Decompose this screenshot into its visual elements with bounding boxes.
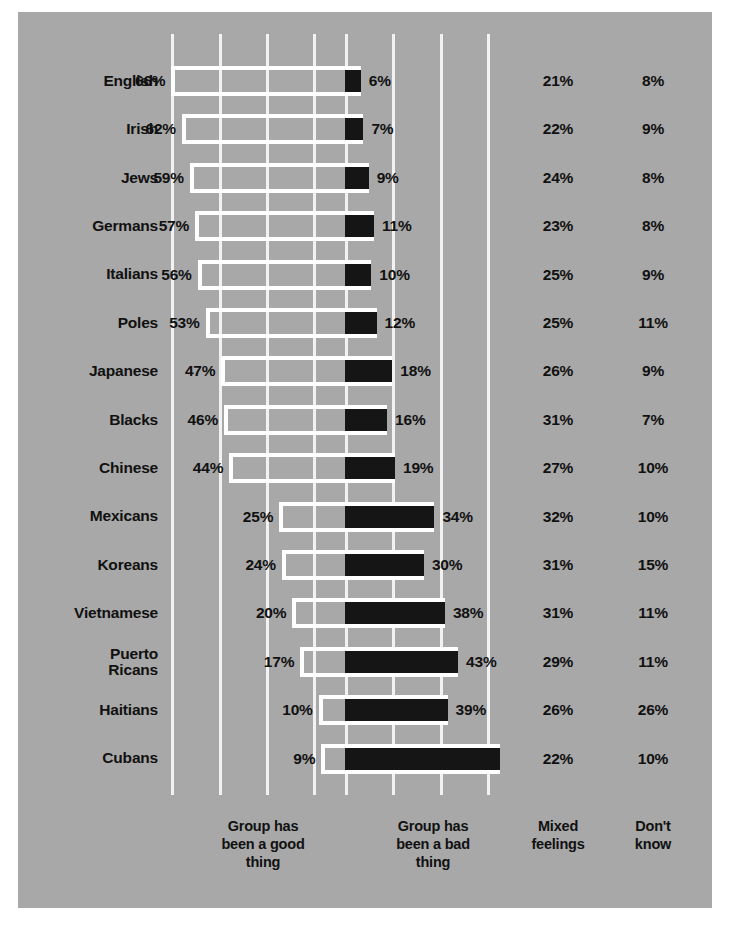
header-dont-know: Don't know: [618, 817, 688, 853]
bar-bad-segment: [345, 70, 361, 92]
value-dont-know: 9%: [618, 253, 688, 297]
value-bad: 30%: [432, 543, 512, 587]
bar-bad-segment: [345, 651, 458, 673]
value-bad: 6%: [369, 59, 449, 103]
value-good: 66%: [18, 59, 165, 103]
value-good: 46%: [18, 398, 218, 442]
chart-row: Mexicans25%34%32%10%: [18, 495, 712, 539]
value-good: 24%: [18, 543, 276, 587]
value-bad: 38%: [453, 591, 533, 635]
value-good: 62%: [18, 107, 176, 151]
value-mixed-feelings: 32%: [523, 495, 593, 539]
bar-bad-segment: [345, 602, 445, 624]
bar-bad-segment: [345, 118, 363, 140]
chart-row: Jews59%9%24%8%: [18, 156, 712, 200]
value-dont-know: 8%: [618, 156, 688, 200]
value-mixed-feelings: 27%: [523, 446, 593, 490]
value-bad: 12%: [385, 301, 465, 345]
bar-bad-segment: [345, 409, 387, 431]
value-dont-know: 11%: [618, 591, 688, 635]
value-bad: 7%: [371, 107, 451, 151]
chart-row: English66%6%21%8%: [18, 59, 712, 103]
value-bad: 19%: [403, 446, 483, 490]
value-mixed-feelings: 31%: [523, 398, 593, 442]
value-bad: 34%: [442, 495, 522, 539]
bar-bad-segment: [345, 312, 377, 334]
value-bad: 18%: [400, 349, 480, 393]
value-good: 47%: [18, 349, 215, 393]
value-good: 53%: [18, 301, 200, 345]
value-mixed-feelings: 26%: [523, 349, 593, 393]
value-good: 20%: [18, 591, 286, 635]
chart-row: Poles53%12%25%11%: [18, 301, 712, 345]
chart-row: Cubans9%22%10%: [18, 737, 712, 781]
value-mixed-feelings: 26%: [523, 688, 593, 732]
chart-row: Irish62%7%22%9%: [18, 107, 712, 151]
bar-bad-segment: [345, 167, 369, 189]
chart-row: Vietnamese20%38%31%11%: [18, 591, 712, 635]
value-mixed-feelings: 24%: [523, 156, 593, 200]
value-good: 9%: [18, 737, 315, 781]
bar-outline: [171, 66, 360, 96]
value-good: 59%: [18, 156, 184, 200]
value-dont-know: 11%: [618, 640, 688, 684]
chart-row: Germans57%11%23%8%: [18, 204, 712, 248]
bar-outline: [182, 114, 363, 144]
chart-row: Italians56%10%25%9%: [18, 253, 712, 297]
value-good: 25%: [18, 495, 273, 539]
value-mixed-feelings: 31%: [523, 543, 593, 587]
plot-area: English66%6%21%8%Irish62%7%22%9%Jews59%9…: [18, 12, 712, 908]
value-good: 57%: [18, 204, 189, 248]
value-dont-know: 11%: [618, 301, 688, 345]
value-bad: 9%: [377, 156, 457, 200]
value-dont-know: 8%: [618, 59, 688, 103]
value-mixed-feelings: 25%: [523, 301, 593, 345]
bar-bad-segment: [345, 264, 371, 286]
value-mixed-feelings: 22%: [523, 107, 593, 151]
chart-row: Haitians10%39%26%26%: [18, 688, 712, 732]
bar-bad-segment: [345, 215, 374, 237]
value-mixed-feelings: 25%: [523, 253, 593, 297]
value-mixed-feelings: 22%: [523, 737, 593, 781]
value-dont-know: 8%: [618, 204, 688, 248]
header-bad-thing: Group has been a bad thing: [358, 817, 508, 871]
chart-row: Koreans24%30%31%15%: [18, 543, 712, 587]
bar-bad-segment: [345, 457, 395, 479]
value-mixed-feelings: 23%: [523, 204, 593, 248]
chart-panel: English66%6%21%8%Irish62%7%22%9%Jews59%9…: [18, 12, 712, 908]
value-dont-know: 9%: [618, 349, 688, 393]
bar-outline: [190, 163, 369, 193]
value-dont-know: 7%: [618, 398, 688, 442]
value-dont-know: 10%: [618, 446, 688, 490]
header-mixed-feelings: Mixed feelings: [523, 817, 593, 853]
bar-bad-segment: [345, 748, 500, 770]
value-bad: 11%: [382, 204, 462, 248]
value-good: 56%: [18, 253, 192, 297]
bar-bad-segment: [345, 554, 424, 576]
value-dont-know: 10%: [618, 495, 688, 539]
value-bad: 16%: [395, 398, 475, 442]
bar-bad-segment: [345, 360, 392, 382]
value-bad: 10%: [379, 253, 459, 297]
value-mixed-feelings: 29%: [523, 640, 593, 684]
bar-bad-segment: [345, 506, 434, 528]
value-good: 10%: [18, 688, 313, 732]
value-mixed-feelings: 21%: [523, 59, 593, 103]
value-dont-know: 26%: [618, 688, 688, 732]
value-dont-know: 15%: [618, 543, 688, 587]
chart-row: Blacks46%16%31%7%: [18, 398, 712, 442]
value-dont-know: 9%: [618, 107, 688, 151]
header-good-thing: Group has been a good thing: [178, 817, 348, 871]
value-good: 44%: [18, 446, 223, 490]
value-dont-know: 10%: [618, 737, 688, 781]
chart-row: Puerto Ricans17%43%29%11%: [18, 640, 712, 684]
chart-row: Chinese44%19%27%10%: [18, 446, 712, 490]
chart-row: Japanese47%18%26%9%: [18, 349, 712, 393]
bar-bad-segment: [345, 699, 448, 721]
value-good: 17%: [18, 640, 294, 684]
value-mixed-feelings: 31%: [523, 591, 593, 635]
